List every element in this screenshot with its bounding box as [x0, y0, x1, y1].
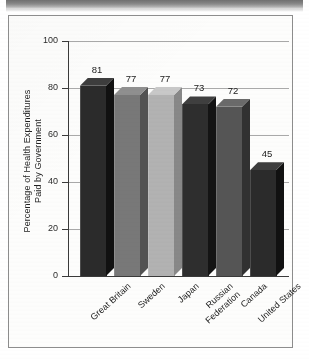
y-tick-label-60: 60 — [32, 130, 58, 139]
gridline-100 — [69, 41, 289, 42]
y-tick-label-40: 40 — [32, 177, 58, 186]
bar-russian-federation — [182, 96, 216, 276]
bar-front-face — [182, 104, 209, 276]
y-tick-label-100: 100 — [32, 36, 58, 45]
bar-chart-plot-area: Percentage of Health Expenditures Paid b… — [0, 0, 309, 359]
bar-japan — [148, 87, 182, 276]
bar-side-face — [140, 87, 148, 276]
bar-sweden — [114, 87, 148, 276]
value-label-canada: 72 — [213, 86, 253, 96]
bar-side-face — [276, 162, 284, 276]
bar-front-face — [216, 107, 243, 276]
value-label-united-states: 45 — [247, 149, 287, 159]
bar-front-face — [148, 95, 175, 276]
y-tick-label-80: 80 — [32, 83, 58, 92]
bar-united-states — [250, 162, 284, 276]
bar-side-face — [242, 99, 250, 276]
y-tick-label-0: 0 — [32, 271, 58, 280]
bar-side-face — [208, 96, 216, 276]
bar-front-face — [114, 95, 141, 276]
bar-side-face — [106, 78, 114, 276]
bar-great-britain — [80, 78, 114, 276]
y-axis-title: Percentage of Health Expenditures Paid b… — [22, 46, 44, 276]
y-tick-label-20: 20 — [32, 224, 58, 233]
bar-front-face — [80, 86, 107, 276]
x-axis-line — [68, 276, 289, 277]
y-axis-title-line-1: Percentage of Health Expenditures — [22, 90, 32, 233]
y-axis-line — [68, 41, 69, 277]
bar-canada — [216, 99, 250, 276]
bar-front-face — [250, 170, 277, 276]
bar-side-face — [174, 87, 182, 276]
